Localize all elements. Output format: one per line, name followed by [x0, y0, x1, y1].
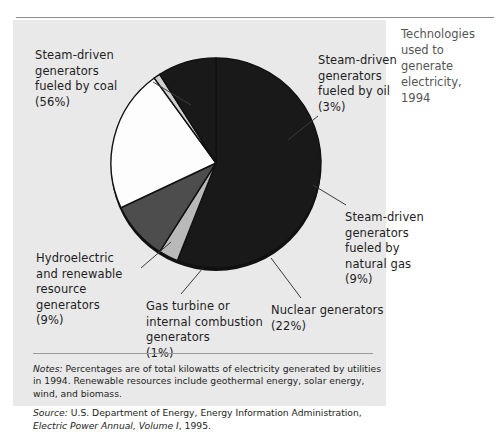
chart-panel: Steam-driven generators fueled by coal (… — [13, 20, 386, 406]
leader-line-nuclear — [271, 258, 301, 298]
leader-line-gas-turbine — [181, 268, 203, 294]
notes-block: Notes: Percentages are of total kilowatt… — [33, 363, 381, 434]
source-tail: , 1995. — [179, 420, 211, 431]
source-line: Source: U.S. Department of Energy, Energ… — [33, 407, 381, 432]
source-publication-title: Electric Power Annual, Volume I — [33, 420, 179, 431]
top-divider-rule — [16, 17, 494, 18]
slice-label-oil: Steam-driven generators fueled by oil (3… — [318, 53, 414, 115]
leader-line-natural-gas — [313, 185, 346, 205]
source-label: Source: — [33, 407, 68, 418]
source-text: U.S. Department of Energy, Energy Inform… — [68, 407, 362, 418]
notes-label: Notes: — [33, 363, 63, 374]
notes-line: Notes: Percentages are of total kilowatt… — [33, 363, 381, 400]
notes-divider-rule — [33, 353, 373, 354]
side-caption: Technologies used to generate electricit… — [401, 26, 493, 106]
slice-label-gas-turbine: Gas turbine or internal combustion gener… — [146, 299, 271, 361]
slice-label-nuclear: Nuclear generators (22%) — [271, 303, 391, 334]
slice-label-natural-gas: Steam-driven generators fueled by natura… — [345, 210, 441, 288]
slice-label-hydro: Hydroelectric and renewable resource gen… — [36, 251, 154, 329]
notes-text: Percentages are of total kilowatts of el… — [33, 363, 381, 399]
slice-label-coal: Steam-driven generators fueled by coal (… — [35, 48, 170, 110]
